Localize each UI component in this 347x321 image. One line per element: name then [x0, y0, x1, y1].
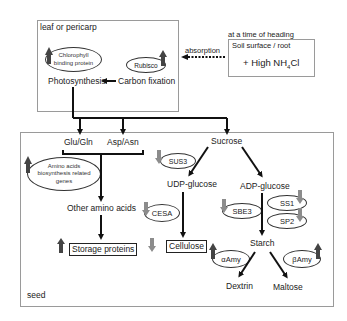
down-arrow-icons — [142, 150, 304, 252]
pathway-arrows — [0, 0, 347, 321]
